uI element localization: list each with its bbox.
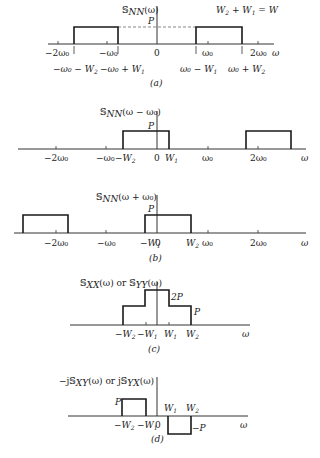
caption-b: (b) bbox=[149, 253, 162, 263]
caption-d: (d) bbox=[151, 434, 164, 444]
omega-label: ω bbox=[272, 48, 280, 58]
level-neg-p: −P bbox=[192, 423, 207, 433]
tick-label: W2 bbox=[186, 403, 199, 414]
tick-label: 2ω₀ bbox=[250, 238, 267, 248]
ylabel-b2: 𝕊NN(ω + ω₀) bbox=[96, 192, 157, 204]
ylabel-d: −j𝕊XY(ω) or j𝕊YX(ω) bbox=[59, 376, 154, 388]
panel-b-shift-minus: 𝕊NN(ω − ω₀) P −2ω₀ −ω₀ −W2 0 W1 ω₀ 2ω₀ ω bbox=[18, 107, 309, 164]
tick-label: −2ω₀ bbox=[44, 238, 69, 248]
band-left bbox=[23, 215, 68, 233]
tick-label: −2ω₀ bbox=[45, 48, 70, 58]
tick-label: W1 bbox=[165, 153, 178, 164]
tick-label: −ω₀ bbox=[96, 153, 115, 163]
tick-label: −W1 bbox=[137, 329, 158, 340]
tick-label: −W2 bbox=[114, 420, 135, 431]
caption-a: (a) bbox=[150, 78, 163, 88]
tick-label: −W2 bbox=[115, 153, 136, 164]
omega-label: ω bbox=[301, 238, 309, 248]
relation: W2 + W1 = W bbox=[216, 5, 279, 16]
tick-label: ω₀ bbox=[202, 48, 213, 58]
omega-label: ω bbox=[240, 420, 248, 430]
tick-label: 0 bbox=[155, 420, 161, 430]
panel-a: 𝕊NN(ω) P W2 + W1 = W −2ω₀ −ω₀ 0 ω₀ 2ω₀ ω… bbox=[45, 5, 280, 88]
ylabel-b1: 𝕊NN(ω − ω₀) bbox=[100, 107, 161, 119]
tick-label: W1 bbox=[164, 403, 177, 414]
tick-label: 0 bbox=[154, 153, 160, 163]
panel-c: 𝕊XX(ω) or 𝕊YY(ω) 2P P −W2 −W1 W1 W2 ω (c… bbox=[70, 278, 250, 354]
level-p: P bbox=[114, 397, 122, 407]
tick-label: ω₀ bbox=[202, 153, 213, 163]
psd-figure: 𝕊NN(ω) P W2 + W1 = W −2ω₀ −ω₀ 0 ω₀ 2ω₀ ω… bbox=[0, 0, 320, 458]
level-p: P bbox=[147, 121, 155, 131]
edge-label: ω₀ − W1 bbox=[180, 64, 217, 75]
tick-label: 2ω₀ bbox=[250, 48, 267, 58]
tick-label: ω₀ bbox=[202, 238, 213, 248]
tick-label: W2 bbox=[186, 238, 199, 249]
tick-label: 2ω₀ bbox=[250, 153, 267, 163]
level-p: P bbox=[147, 16, 155, 26]
tick-label: 0 bbox=[154, 48, 160, 58]
level-2p: 2P bbox=[170, 292, 184, 302]
band-left bbox=[74, 27, 118, 44]
tick-label: W2 bbox=[186, 329, 199, 340]
caption-c: (c) bbox=[148, 344, 161, 354]
omega-label: ω bbox=[301, 153, 309, 163]
tick-label: −ω₀ bbox=[97, 238, 116, 248]
tick-label: −ω₀ bbox=[99, 48, 118, 58]
edge-label: ω₀ + W2 bbox=[228, 64, 265, 75]
tick-label: −2ω₀ bbox=[44, 153, 69, 163]
band-negative bbox=[168, 416, 191, 434]
omega-label: ω bbox=[242, 329, 250, 339]
panel-b-shift-plus: 𝕊NN(ω + ω₀) P −2ω₀ −ω₀ −W1 0 W2 ω₀ 2ω₀ ω… bbox=[14, 192, 309, 263]
panel-d: −j𝕊XY(ω) or j𝕊YX(ω) P −P −W2 −W1 0 W1 W2… bbox=[59, 376, 248, 444]
band-center bbox=[123, 131, 169, 149]
band-center bbox=[145, 215, 191, 233]
ylabel-c: 𝕊XX(ω) or 𝕊YY(ω) bbox=[80, 278, 162, 290]
tick-label: −W2 bbox=[115, 329, 136, 340]
level-p: P bbox=[193, 307, 201, 317]
tick-label: 0 bbox=[155, 238, 161, 248]
edge-label: −ω₀ − W2 bbox=[53, 64, 98, 75]
level-p: P bbox=[147, 204, 155, 214]
band-right bbox=[196, 27, 242, 44]
band-right bbox=[246, 131, 291, 149]
edge-label: −ω₀ + W1 bbox=[100, 64, 145, 75]
band-positive bbox=[122, 399, 146, 416]
tick-label: W1 bbox=[164, 329, 177, 340]
